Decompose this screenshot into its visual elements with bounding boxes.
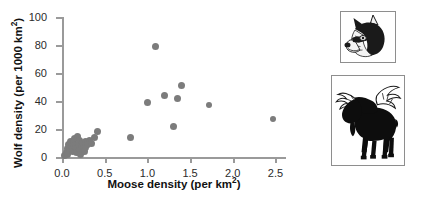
chart-block: 020406080100 0.00.51.01.52.02.5 Moose de… [0,0,320,200]
x-axis-line [62,157,286,159]
y-axis-title-base: Wolf density (per 1000 km [12,26,24,168]
data-point [178,82,185,89]
data-point [144,99,151,106]
x-axis-tick [233,157,235,163]
x-axis-tick [275,157,277,163]
y-axis-title: Wolf density (per 1000 km2) [12,18,24,168]
wolf-head-icon [341,12,395,62]
y-axis-tick: 40 [56,101,62,103]
y-axis-tick-label: 100 [29,11,47,23]
x-axis-tick [105,157,107,163]
data-point [206,102,212,108]
x-axis-title-tail: ) [237,178,241,190]
y-axis-title-tail: ) [12,18,24,22]
y-axis-title-superscript: 2 [10,22,19,27]
scatter-plot-figure: 020406080100 0.00.51.01.52.02.5 Moose de… [0,0,424,200]
y-axis-tick: 20 [56,129,62,131]
moose-silhouette-icon [332,76,404,165]
data-point [94,128,101,135]
y-axis-tick: 80 [56,45,62,47]
data-point [127,134,134,141]
y-axis-tick: 60 [56,73,62,75]
x-axis-tick [147,157,149,163]
data-point [270,116,276,122]
y-axis-tick-label: 20 [35,123,47,135]
x-axis-title-base: Moose density (per km [107,178,232,190]
y-axis-tick-label: 60 [35,67,47,79]
data-point [152,43,159,50]
y-axis-tick-label: 80 [35,39,47,51]
data-point [170,123,177,130]
y-axis-tick: 100 [56,17,62,19]
data-point [161,92,168,99]
wolf-head-illustration [340,11,396,63]
y-axis-tick-label: 40 [35,95,47,107]
x-axis-title: Moose density (per km2) [62,178,286,190]
x-axis-tick [190,157,192,163]
plot-area: 020406080100 0.00.51.01.52.02.5 [62,17,284,157]
moose-silhouette-illustration [331,75,405,166]
y-axis-tick-label: 0 [41,151,47,163]
data-point [174,95,181,102]
